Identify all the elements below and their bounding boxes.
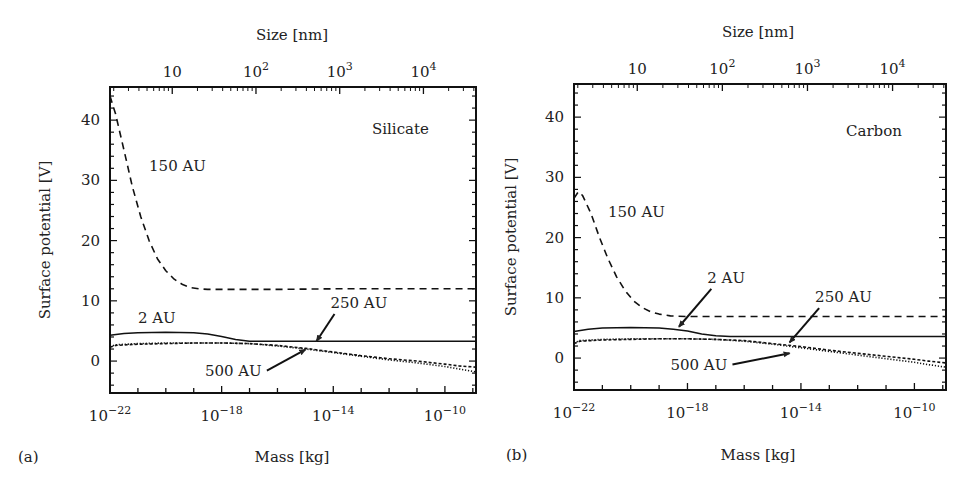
y-tick-label: 20	[81, 232, 100, 250]
y-tick-label: 40	[545, 108, 564, 126]
x-tick-label: 10−22	[553, 401, 595, 422]
top-tick-label: 10	[163, 63, 182, 81]
series-line-2-au	[110, 332, 476, 341]
x-axis-title: Mass [kg]	[721, 446, 796, 464]
plot-area: 10−2210−1810−1410−1010102103104010203040…	[545, 57, 946, 422]
x-axis-title: Mass [kg]	[255, 448, 330, 466]
x-tick-label: 10−18	[666, 401, 708, 422]
annotation-label: 500 AU	[670, 356, 727, 374]
y-axis-title: Surface potential [V]	[36, 161, 54, 320]
y-axis-title: Surface potential [V]	[502, 158, 520, 317]
y-tick-label: 10	[81, 292, 100, 310]
top-tick-label: 103	[327, 60, 353, 81]
annotation-label: 2 AU	[138, 309, 176, 327]
y-tick-label: 30	[81, 171, 100, 189]
top-tick-label: 10	[628, 60, 647, 78]
series-line-2-au	[574, 327, 946, 336]
y-tick-label: 0	[554, 349, 564, 367]
y-tick-label: 30	[545, 168, 564, 186]
panel-b: Size [nm] Mass [kg] Surface potential [V…	[502, 23, 946, 464]
annotation-label: 500 AU	[205, 362, 262, 380]
panel-label: (a)	[18, 448, 39, 466]
series-line-500-au	[574, 339, 946, 367]
top-tick-label: 104	[880, 57, 906, 78]
figure: Size [nm] Mass [kg] Surface potential [V…	[0, 0, 970, 489]
top-tick-label: 102	[709, 57, 735, 78]
panel-a: Size [nm] Mass [kg] Surface potential [V…	[18, 26, 476, 466]
plot-area: 10−2210−1810−1410−1010102103104010203040…	[81, 60, 476, 425]
material-label: Carbon	[846, 122, 902, 140]
annotation-label: 150 AU	[608, 203, 665, 221]
annotation-label: 2 AU	[707, 269, 745, 287]
x-tick-label: 10−10	[893, 401, 935, 422]
annotation-arrow	[317, 314, 335, 341]
panel-label: (b)	[506, 446, 527, 464]
top-tick-label: 103	[794, 57, 820, 78]
x-tick-label: 10−14	[780, 401, 822, 422]
y-tick-label: 40	[81, 111, 100, 129]
annotation-arrow	[732, 353, 789, 364]
top-x-axis-title: Size [nm]	[722, 23, 794, 41]
annotation-label: 150 AU	[149, 157, 206, 175]
annotation-arrow	[790, 308, 820, 342]
annotation-arrow	[267, 350, 305, 371]
y-tick-label: 10	[545, 289, 564, 307]
top-tick-label: 104	[410, 60, 436, 81]
annotation-arrow	[679, 289, 711, 327]
x-tick-label: 10−14	[312, 404, 354, 425]
x-tick-label: 10−18	[200, 404, 242, 425]
top-tick-label: 102	[243, 60, 269, 81]
y-tick-label: 0	[90, 352, 100, 370]
x-tick-label: 10−10	[424, 404, 466, 425]
y-tick-label: 20	[545, 229, 564, 247]
material-label: Silicate	[372, 120, 429, 138]
top-x-axis-title: Size [nm]	[256, 26, 328, 44]
annotation-label: 250 AU	[330, 294, 387, 312]
x-tick-label: 10−22	[89, 404, 131, 425]
annotation-label: 250 AU	[815, 288, 872, 306]
